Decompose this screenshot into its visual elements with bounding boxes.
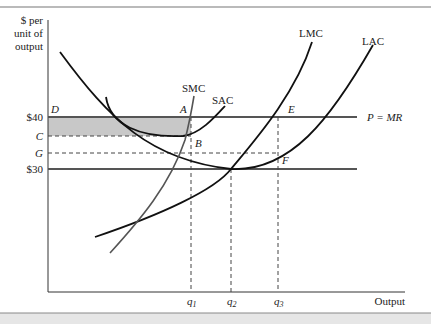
point-label-e: E bbox=[287, 103, 295, 115]
y-axis-label-line3: output bbox=[15, 40, 43, 52]
curve-label-smc: SMC bbox=[182, 82, 205, 94]
price-label-g: G bbox=[35, 147, 43, 159]
quantity-label-q2: q2 bbox=[227, 295, 237, 309]
price-label-c: C bbox=[36, 130, 44, 142]
y-axis-label-line2: unit of bbox=[14, 27, 43, 39]
point-label-f: F bbox=[281, 154, 289, 166]
line-label-p-mr: P = MR bbox=[366, 111, 403, 123]
cost-curves-diagram: $ per unit of output $40 C G $30 D A B E… bbox=[0, 0, 431, 324]
point-label-b: B bbox=[195, 137, 202, 149]
y-axis-label-line1: $ per bbox=[21, 14, 44, 26]
price-label-30: $30 bbox=[27, 163, 44, 175]
quantity-label-q1: q1 bbox=[187, 295, 197, 309]
curve-label-sac: SAC bbox=[212, 94, 233, 106]
price-label-40: $40 bbox=[27, 111, 44, 123]
quantity-label-q3: q3 bbox=[274, 295, 284, 309]
curve-label-lmc: LMC bbox=[299, 27, 323, 39]
x-axis-label: Output bbox=[374, 295, 405, 307]
point-label-d: D bbox=[50, 103, 59, 115]
lac-curve bbox=[60, 45, 373, 169]
point-label-a: A bbox=[179, 103, 187, 115]
lmc-curve bbox=[95, 42, 312, 237]
footer-band bbox=[0, 313, 431, 324]
curve-label-lac: LAC bbox=[362, 35, 384, 47]
